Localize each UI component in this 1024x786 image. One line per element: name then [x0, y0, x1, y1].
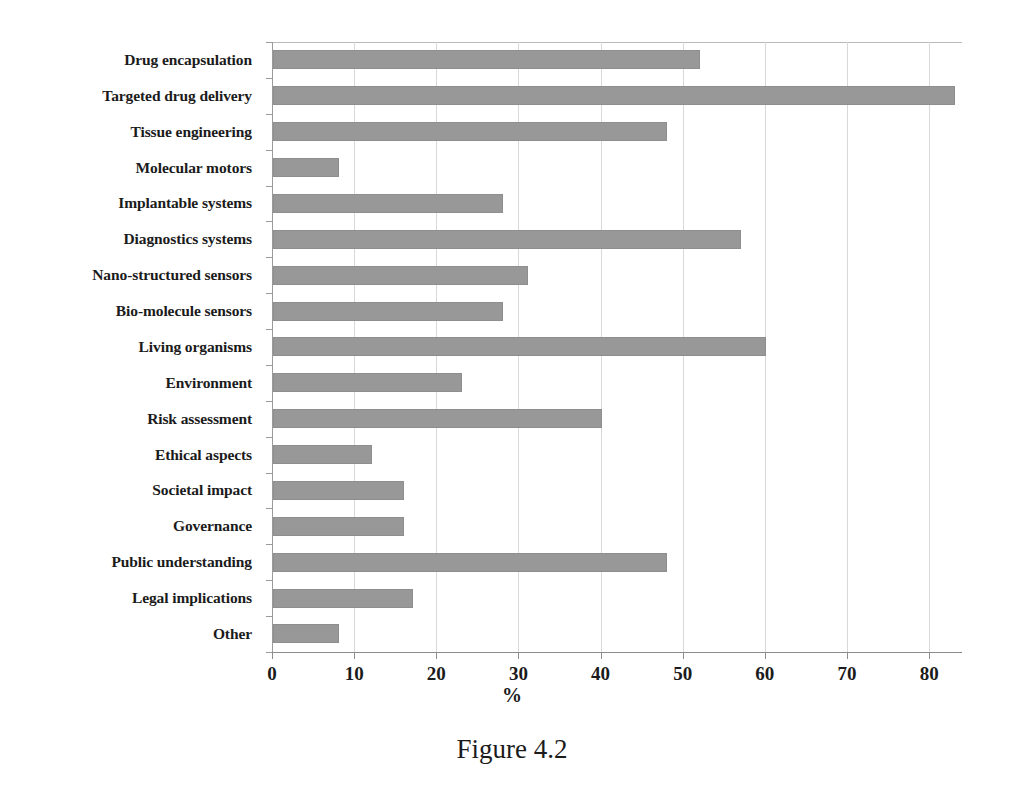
bar-slot: [273, 221, 962, 257]
y-tick: [266, 329, 272, 330]
y-tick: [266, 293, 272, 294]
x-tick: [847, 652, 848, 659]
x-tick: [436, 652, 437, 659]
bar[interactable]: [273, 373, 462, 392]
bar-series: [273, 42, 962, 652]
category-label: Diagnostics systems: [0, 221, 262, 257]
category-label: Targeted drug delivery: [0, 78, 262, 114]
category-label: Other: [0, 616, 262, 652]
bar-slot: [273, 78, 962, 114]
y-tick: [266, 580, 272, 581]
bar[interactable]: [273, 86, 955, 105]
x-tick: [683, 652, 684, 659]
y-tick: [266, 365, 272, 366]
bar-slot: [273, 580, 962, 616]
x-tick: [929, 652, 930, 659]
plot-area: 01020304050607080: [272, 42, 962, 652]
bar[interactable]: [273, 553, 667, 572]
bar[interactable]: [273, 517, 404, 536]
bar-slot: [273, 616, 962, 652]
bar[interactable]: [273, 302, 503, 321]
category-label: Societal impact: [0, 473, 262, 509]
y-tick: [266, 437, 272, 438]
category-axis-labels: Drug encapsulation Targeted drug deliver…: [0, 42, 262, 652]
y-tick: [266, 150, 272, 151]
y-tick: [266, 42, 272, 43]
bar[interactable]: [273, 122, 667, 141]
bar[interactable]: [273, 158, 339, 177]
y-tick: [266, 508, 272, 509]
category-label: Drug encapsulation: [0, 42, 262, 78]
bar[interactable]: [273, 230, 741, 249]
x-tick: [765, 652, 766, 659]
bar-slot: [273, 329, 962, 365]
x-tick-label: 20: [427, 663, 446, 685]
bar[interactable]: [273, 409, 602, 428]
category-label: Risk assessment: [0, 401, 262, 437]
bar[interactable]: [273, 266, 528, 285]
bar[interactable]: [273, 445, 372, 464]
y-tick: [266, 257, 272, 258]
y-tick: [266, 652, 272, 653]
bar-slot: [273, 293, 962, 329]
bar[interactable]: [273, 589, 413, 608]
x-tick-label: 70: [838, 663, 857, 685]
bar-slot: [273, 365, 962, 401]
y-tick: [266, 114, 272, 115]
bar-slot: [273, 401, 962, 437]
category-label: Tissue engineering: [0, 114, 262, 150]
x-tick-label: 80: [920, 663, 939, 685]
bar-slot: [273, 257, 962, 293]
category-label: Bio-molecule sensors: [0, 293, 262, 329]
figure-container: Drug encapsulation Targeted drug deliver…: [0, 0, 1024, 786]
figure-caption: Figure 4.2: [0, 734, 1024, 765]
bar-slot: [273, 544, 962, 580]
bar[interactable]: [273, 50, 700, 69]
y-tick: [266, 544, 272, 545]
category-label: Environment: [0, 365, 262, 401]
bar[interactable]: [273, 337, 766, 356]
bar-slot: [273, 508, 962, 544]
x-tick: [601, 652, 602, 659]
y-tick: [266, 401, 272, 402]
x-tick-label: 50: [673, 663, 692, 685]
bar-slot: [273, 473, 962, 509]
bar-slot: [273, 114, 962, 150]
x-tick-label: 30: [509, 663, 528, 685]
category-label: Legal implications: [0, 580, 262, 616]
x-tick-label: 40: [591, 663, 610, 685]
category-label: Nano-structured sensors: [0, 257, 262, 293]
y-tick: [266, 473, 272, 474]
category-label: Living organisms: [0, 329, 262, 365]
y-tick: [266, 616, 272, 617]
x-axis-title: %: [0, 684, 1024, 707]
category-label: Molecular motors: [0, 150, 262, 186]
x-tick: [354, 652, 355, 659]
category-label: Public understanding: [0, 544, 262, 580]
bar-slot: [273, 150, 962, 186]
x-axis-line: [272, 652, 962, 653]
bar[interactable]: [273, 481, 404, 500]
bar-slot: [273, 42, 962, 78]
category-label: Implantable systems: [0, 186, 262, 222]
x-tick-label: 60: [755, 663, 774, 685]
x-tick-label: 0: [267, 663, 277, 685]
y-tick: [266, 78, 272, 79]
x-tick-label: 10: [345, 663, 364, 685]
y-tick: [266, 221, 272, 222]
bar[interactable]: [273, 624, 339, 643]
y-tick: [266, 186, 272, 187]
bar-slot: [273, 437, 962, 473]
bar-slot: [273, 186, 962, 222]
category-label: Governance: [0, 508, 262, 544]
category-label: Ethical aspects: [0, 437, 262, 473]
x-tick: [518, 652, 519, 659]
bar[interactable]: [273, 194, 503, 213]
x-tick: [272, 652, 273, 659]
